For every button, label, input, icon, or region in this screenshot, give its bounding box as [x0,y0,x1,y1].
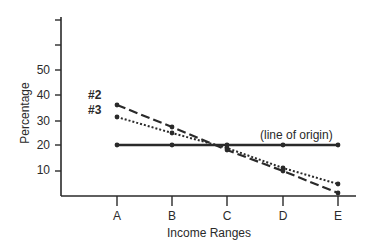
x-tick-b: B [165,209,179,223]
y-tick-10: 10 [26,163,50,177]
x-tick-a: A [110,209,124,223]
y-axis-label: Percentage [18,78,32,148]
series-2-label: #2 [88,88,101,102]
chart-plot [0,0,373,252]
y-tick-50: 50 [26,63,50,77]
x-axis-label: Income Ranges [167,226,251,240]
line-of-origin-label: (line of origin) [260,128,333,142]
series-3-label: #3 [88,103,101,117]
x-tick-c: C [220,209,234,223]
x-tick-e: E [331,209,345,223]
x-tick-d: D [276,209,290,223]
